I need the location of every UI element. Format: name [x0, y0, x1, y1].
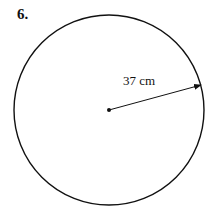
radius-label: 37 cm	[123, 73, 155, 88]
radius-arrow	[109, 85, 201, 110]
circle-diagram: 37 cm	[0, 0, 212, 213]
